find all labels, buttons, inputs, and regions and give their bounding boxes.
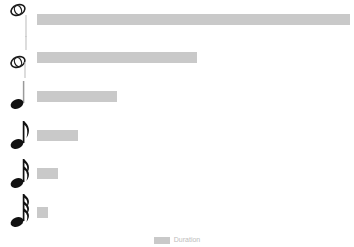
bar-track — [37, 154, 354, 193]
bar-track — [37, 0, 354, 39]
bar-thirty-second-note[interactable] — [37, 207, 48, 218]
bar-track — [37, 39, 354, 78]
bar-whole-note[interactable] — [37, 14, 350, 25]
bar-eighth-note[interactable] — [37, 130, 78, 141]
chart-row — [0, 154, 354, 193]
chart-row — [0, 0, 354, 39]
chart-row — [0, 77, 354, 116]
whole-note-icon — [2, 0, 35, 39]
plot-area — [0, 0, 354, 232]
chart-row — [0, 39, 354, 78]
bar-track — [37, 193, 354, 232]
sixteenth-note-icon — [2, 154, 35, 193]
eighth-note-icon — [2, 116, 35, 155]
legend-label: Duration — [174, 236, 200, 244]
bar-quarter-note[interactable] — [37, 91, 117, 102]
chart-legend: Duration — [0, 232, 354, 247]
bar-half-note[interactable] — [37, 52, 197, 63]
bar-sixteenth-note[interactable] — [37, 168, 58, 179]
chart-row — [0, 116, 354, 155]
chart-row — [0, 193, 354, 232]
bar-track — [37, 116, 354, 155]
bar-track — [37, 77, 354, 116]
note-duration-bar-chart: Duration — [0, 0, 354, 247]
half-note-icon — [2, 39, 35, 78]
legend-swatch-icon — [154, 237, 170, 244]
thirty-second-note-icon — [2, 193, 35, 232]
quarter-note-icon — [2, 77, 35, 116]
legend-item[interactable]: Duration — [154, 236, 200, 244]
